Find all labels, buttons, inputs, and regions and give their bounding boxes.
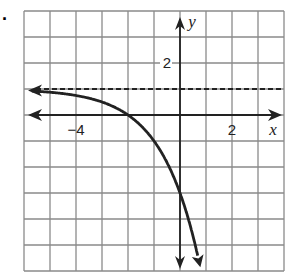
y-axis-label: y bbox=[186, 12, 196, 31]
x-tick-label: 2 bbox=[228, 121, 236, 138]
y-tick-label: 2 bbox=[163, 54, 171, 71]
coordinate-graph: −422xy bbox=[0, 0, 285, 276]
x-axis-label: x bbox=[268, 120, 277, 139]
tick-labels: −422xy bbox=[67, 12, 280, 139]
function-curve bbox=[28, 85, 204, 268]
x-tick-label: −4 bbox=[67, 121, 84, 138]
